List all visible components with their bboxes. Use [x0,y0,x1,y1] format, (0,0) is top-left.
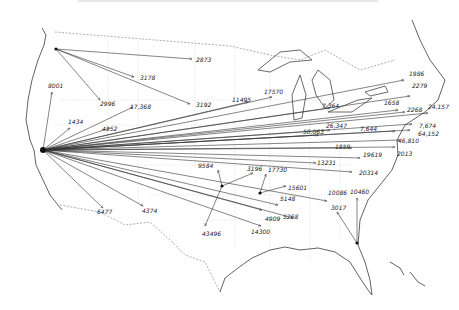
flow-label: 3017 [331,204,346,211]
flow-label: 7,644 [360,125,377,132]
flow-label: 24,157 [428,103,449,110]
west-coast-outline [26,28,62,210]
flow-label: 64,152 [418,130,439,137]
flow-label: 3196 [247,165,262,172]
flow-arrow [43,150,360,158]
origin-points [40,47,359,244]
flow-label: 17,368 [130,103,151,110]
origin-dot-icon [220,184,223,187]
flow-label: 8001 [48,82,63,89]
flow-label: 2996 [100,100,115,107]
flow-label: 15601 [288,184,307,191]
flow-label: 3178 [140,74,155,81]
flow-label: 10460 [350,188,369,195]
flow-label: 4152 [102,125,117,132]
flow-label: 26,347 [326,122,347,129]
flow-label: 1859 [335,143,350,150]
flow-label: 7,674 [419,122,436,129]
flow-label: 11495 [232,96,251,103]
flow-arrow [43,96,410,150]
flow-label: 13231 [317,159,336,166]
flow-label: 6477 [97,208,112,215]
flow-label: 5268 [283,213,298,220]
origin-dot-icon [258,191,261,194]
canada-border-icon [55,32,395,70]
mexico-border-icon [60,205,220,292]
flow-label: 9584 [198,162,213,169]
origin-dot-icon [54,47,57,50]
flow-arrow [43,92,52,150]
flow-label: 2268 [407,106,422,113]
flow-label: 50,063 [303,128,324,135]
flow-label: 14300 [251,228,270,235]
flow-label: 1986 [409,70,424,77]
flow-label: 43496 [202,230,221,237]
gulf-coast-outline [220,245,372,295]
flow-label: 20314 [359,169,378,176]
flow-arrow [43,112,405,150]
flow-label: 19619 [363,151,382,158]
flow-arrow [43,80,404,150]
flow-label: 10086 [328,189,347,196]
flow-arrow [222,173,253,186]
flow-label: 3192 [196,101,211,108]
origin-dot-icon [40,147,46,153]
origin-dot-icon [355,241,358,244]
flow-label: 46,810 [398,137,419,144]
flow-arrow [43,150,327,201]
great-lakes [258,50,388,120]
flow-label: 1434 [68,118,83,125]
flow-arrow [43,150,143,206]
flow-label: 17730 [268,166,287,173]
flow-label: 4374 [142,207,157,214]
flow-label: 2013 [397,150,412,157]
state-boundaries [55,40,350,260]
us-flow-map: 287331782996319280011434415217,368114951… [0,0,459,310]
flow-label: 1658 [384,99,399,106]
flow-label: 5148 [280,195,295,202]
flow-label: 17570 [264,88,283,95]
flow-label: 7,364 [322,102,339,109]
flow-label: 2279 [412,82,427,89]
caribbean-islands [390,262,425,286]
header-strip [78,0,378,2]
flow-arrow [43,150,261,226]
flow-label: 2873 [196,56,211,63]
flow-arrow [218,170,222,186]
flow-label: 4909 [265,215,280,222]
flow-arrow [43,150,103,208]
